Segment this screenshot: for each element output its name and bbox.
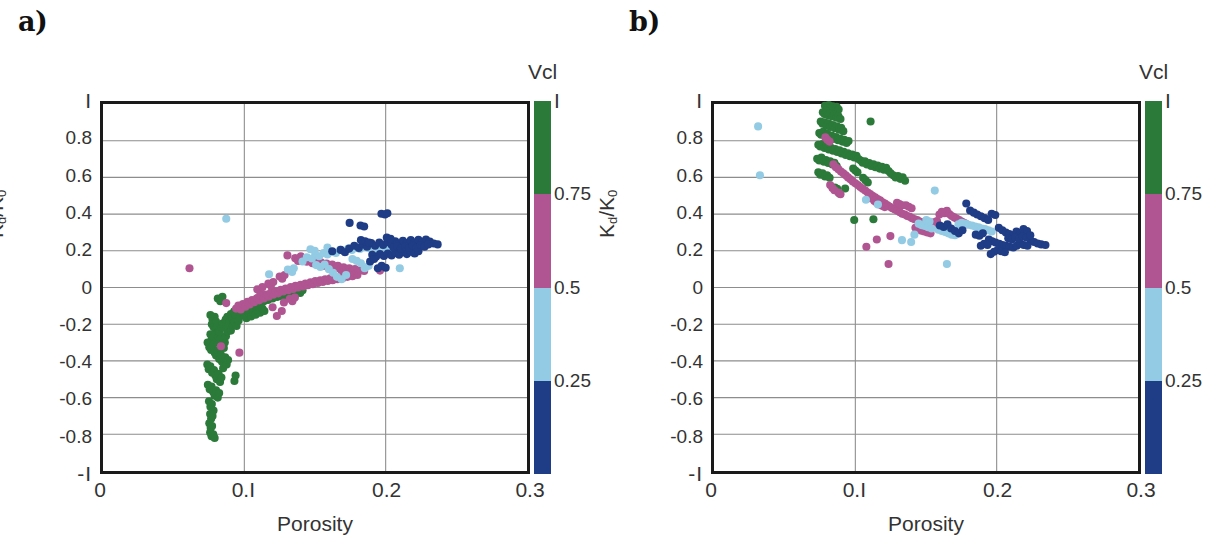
data-point	[862, 243, 870, 251]
data-point	[211, 434, 219, 442]
data-point	[346, 219, 354, 227]
panel-a-colorbar	[534, 101, 551, 474]
data-point	[756, 171, 764, 179]
data-point	[839, 127, 847, 135]
data-point	[215, 389, 223, 397]
data-point	[925, 217, 933, 225]
data-point	[928, 224, 936, 232]
data-point	[235, 349, 243, 357]
data-point	[217, 342, 225, 350]
ytick-label: 0.2	[66, 239, 92, 261]
data-point	[260, 307, 268, 315]
ytick-label: -0.2	[59, 314, 92, 336]
data-point	[943, 260, 951, 268]
colorbar-segment-vcl-0.25-0.5	[1145, 288, 1162, 381]
data-point	[283, 251, 291, 259]
panel-a-xtick-labels: 00.I0.20.3	[100, 478, 530, 508]
colorbar-tick-label: 0.25	[1165, 370, 1202, 392]
colorbar-segment-vcl-0-0.25	[1145, 381, 1162, 474]
yaxis-sub-0: 0	[0, 190, 9, 197]
data-point	[208, 412, 216, 420]
panel-b-yaxis-title: Kd/K0	[595, 190, 620, 238]
data-point	[886, 232, 894, 240]
ytick-label: I	[696, 89, 703, 113]
data-point	[387, 235, 395, 243]
xtick-label: 0.2	[372, 478, 401, 502]
panel-b-xtick-labels: 00.I0.20.3	[711, 478, 1141, 508]
data-point	[988, 228, 996, 236]
ytick-label: -0.8	[670, 426, 703, 448]
data-point	[867, 117, 875, 125]
panel-a-colorbar-title: Vcl	[528, 60, 557, 84]
panel-b-colorbar-ticks: I0.750.50.25	[1165, 101, 1221, 474]
data-point	[850, 216, 858, 224]
data-point	[907, 238, 915, 246]
panel-b-scatter-canvas	[714, 104, 1138, 471]
ytick-label: I	[85, 89, 92, 113]
colorbar-tick-label: 0.25	[554, 370, 591, 392]
ytick-label: 0	[692, 277, 703, 299]
panel-a-plot-area	[100, 101, 530, 474]
data-point	[836, 190, 844, 198]
data-point	[434, 240, 442, 248]
xtick-label: 0	[705, 478, 717, 502]
xtick-label: 0.3	[1126, 478, 1155, 502]
xtick-label: 0.3	[515, 478, 544, 502]
ytick-label: 0	[81, 277, 92, 299]
xtick-label: 0.2	[983, 478, 1012, 502]
data-point	[217, 373, 225, 381]
data-point	[754, 122, 762, 130]
data-point	[288, 268, 296, 276]
colorbar-segment-vcl-0.75-1	[1145, 101, 1162, 194]
colorbar-tick-label: I	[1165, 89, 1172, 113]
data-point	[991, 211, 999, 219]
panel-b-ytick-labels: I0.80.60.40.20-0.2-0.4-0.6-0.8-I	[639, 101, 703, 474]
data-point	[222, 299, 230, 307]
data-point	[1026, 231, 1034, 239]
data-point	[898, 236, 906, 244]
ytick-label: -0.4	[59, 351, 92, 373]
data-point	[910, 231, 918, 239]
data-point	[958, 226, 966, 234]
data-point	[864, 179, 872, 187]
panel-a-label: a)	[18, 6, 47, 37]
panel-b-xaxis-title: Porosity	[711, 512, 1141, 536]
data-point	[869, 215, 877, 223]
colorbar-tick-label: 0.5	[554, 277, 580, 299]
data-point	[908, 204, 916, 212]
data-point	[383, 209, 391, 217]
colorbar-segment-vcl-0.25-0.5	[534, 288, 551, 381]
data-point	[328, 247, 336, 255]
data-point	[845, 137, 853, 145]
ytick-label: -0.6	[670, 388, 703, 410]
data-point	[224, 356, 232, 364]
ytick-label: -0.4	[670, 351, 703, 373]
data-point	[979, 229, 987, 237]
data-point	[1023, 242, 1031, 250]
data-point	[836, 115, 844, 123]
ytick-label: 0.2	[677, 239, 703, 261]
panel-a-yaxis-title: Kd/K0	[0, 190, 9, 238]
panel-a-scatter-canvas	[103, 104, 527, 471]
xtick-label: 0.I	[232, 478, 255, 502]
data-point	[265, 270, 273, 278]
panel-a-xaxis-title: Porosity	[100, 512, 530, 536]
data-point	[826, 174, 834, 182]
xtick-label: 0	[94, 478, 106, 502]
data-point	[396, 264, 404, 272]
data-point	[382, 264, 390, 272]
yaxis-sub-0: 0	[605, 190, 620, 197]
ytick-label: 0.6	[677, 165, 703, 187]
colorbar-segment-vcl-0.5-0.75	[1145, 194, 1162, 287]
colorbar-tick-label: 0.75	[554, 183, 591, 205]
data-point	[342, 271, 350, 279]
yaxis-slash-k: /K	[0, 197, 7, 217]
data-point	[360, 223, 368, 231]
panel-b-colorbar	[1145, 101, 1162, 474]
yaxis-sub-d: d	[605, 217, 620, 224]
ytick-label: 0.4	[66, 202, 92, 224]
data-point	[280, 299, 288, 307]
panel-b-label: b)	[629, 6, 660, 37]
xtick-label: 0.I	[843, 478, 866, 502]
data-point	[874, 201, 882, 209]
